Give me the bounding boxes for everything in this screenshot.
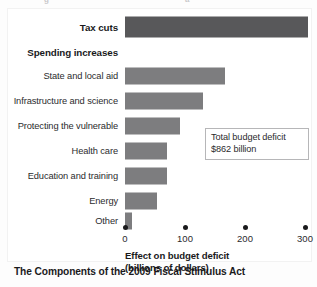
x-axis-tick-label: 0: [109, 233, 141, 244]
tick-dot-icon: [183, 225, 188, 230]
bar: [125, 93, 203, 110]
bar: [125, 168, 167, 185]
callout-line-2: $862 billion: [211, 144, 304, 156]
bar-row-label: Infrastructure and science: [8, 96, 125, 106]
bar-row: State and local aid: [8, 65, 311, 87]
bar-row: Infrastructure and science: [8, 90, 311, 112]
bar-row-label: Protecting the vulnerable: [8, 121, 125, 131]
bar-row-label: Spending increases: [8, 47, 125, 58]
bar: [125, 118, 180, 135]
bar-track: [125, 190, 311, 212]
x-axis-tick: 300: [289, 225, 317, 244]
tick-dot-icon: [303, 225, 308, 230]
figure-caption: The Components of the 2009 Fiscal Stimul…: [14, 266, 245, 277]
bar-row-label: State and local aid: [8, 71, 125, 81]
callout-line-1: Total budget deficit: [211, 132, 304, 144]
bar-row-label: Health care: [8, 146, 125, 156]
bar: [125, 17, 308, 38]
bar-group-header: Spending increases: [8, 41, 311, 63]
tick-dot-icon: [243, 225, 248, 230]
tick-dot-icon: [123, 225, 128, 230]
bar: [125, 143, 167, 160]
bar-track: [125, 165, 311, 187]
bar-track: [125, 14, 311, 40]
bar: [125, 68, 225, 85]
x-axis-tick-label: 100: [169, 233, 201, 244]
x-axis-tick-label: 300: [289, 233, 317, 244]
x-axis-tick: 200: [229, 225, 261, 244]
top-bleed-glyph-right: a: [185, 0, 189, 4]
top-edge-bleed: g a: [0, 0, 317, 9]
x-axis-tick: 100: [169, 225, 201, 244]
bar-row-label: Other: [8, 216, 125, 226]
x-axis-tick-label: 200: [229, 233, 261, 244]
x-axis-title-line1: Effect on budget deficit: [125, 250, 305, 262]
stimulus-bar-chart-figure: g a Tax cutsSpending increasesState and …: [0, 0, 317, 287]
bar-row-label: Education and training: [8, 171, 125, 181]
bar-row: Education and training: [8, 165, 311, 187]
top-bleed-glyph-left: g: [44, 0, 49, 4]
bar-row: Energy: [8, 190, 311, 212]
bar-row: Tax cuts: [8, 14, 311, 40]
bar-row-label: Energy: [8, 196, 125, 206]
bar-track: [125, 41, 311, 63]
x-axis-tick: 0: [109, 225, 141, 244]
bar-track: [125, 90, 311, 112]
bar: [125, 193, 157, 210]
bar-track: [125, 65, 311, 87]
bar-row-label: Tax cuts: [8, 22, 125, 33]
total-budget-deficit-callout: Total budget deficit $862 billion: [205, 128, 309, 160]
